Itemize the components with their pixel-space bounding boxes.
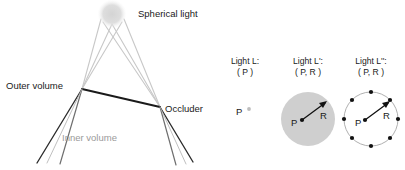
light-Lprime-point-label: P: [291, 118, 297, 129]
ray-light-center-to-occluder-right: [112, 24, 160, 107]
light-Ldprime-radius-label: R: [383, 111, 390, 122]
sample-point: [350, 136, 354, 140]
light-Ldprime-title: Light L'':: [339, 57, 403, 67]
occluder-label: Occluder: [165, 104, 203, 115]
sample-point: [342, 117, 346, 121]
inner-volume-label: Inner volume: [62, 133, 117, 144]
light-Ldprime-sample-points: [342, 90, 400, 148]
ray-light-right-to-occluder-left: [82, 22, 122, 89]
shadow-volume-lines-group: [37, 89, 193, 165]
ray-light-right-to-occluder-right: [124, 19, 160, 107]
sample-point: [369, 90, 373, 94]
sample-point: [350, 98, 354, 102]
outer-volume-line-left: [37, 89, 82, 163]
light-Lprime-params: ( P, R ): [276, 68, 340, 78]
light-L-title: Light L:: [213, 57, 277, 67]
light-Ldprime-params: ( P, R ): [339, 68, 403, 78]
spherical-light-blob: [98, 0, 127, 29]
light-L-point: [247, 107, 251, 111]
inner-volume-line-left: [60, 89, 82, 164]
occluder-bar: [82, 89, 160, 107]
light-rays-group: [82, 19, 160, 107]
light-Ldprime-point-label: P: [355, 118, 361, 129]
light-Lprime-radius-label: R: [320, 111, 327, 122]
sample-point: [369, 144, 373, 148]
light-L-point-label: P: [236, 107, 242, 118]
sample-point: [388, 136, 392, 140]
sample-point: [396, 117, 400, 121]
spherical-light-label: Spherical light: [138, 9, 198, 20]
figure-root: Spherical light Outer volume Occluder In…: [0, 0, 405, 170]
outer-volume-line-right: [160, 107, 193, 162]
light-L-params: ( P ): [213, 68, 277, 78]
light-Lprime-title: Light L':: [276, 57, 340, 67]
outer-volume-label: Outer volume: [6, 81, 63, 92]
ray-extension-left: [47, 89, 82, 163]
ray-light-left-to-occluder-right: [103, 22, 160, 107]
